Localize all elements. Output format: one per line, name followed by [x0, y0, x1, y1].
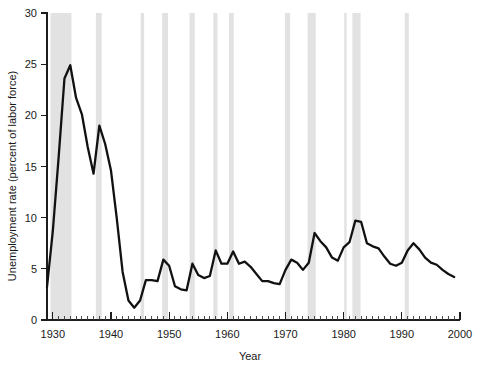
recession-band — [50, 13, 71, 320]
recession-band — [352, 13, 360, 320]
y-tick-label: 5 — [31, 263, 37, 275]
x-tick-label: 1990 — [390, 328, 414, 340]
recession-band — [405, 13, 409, 320]
x-tick-label: 2000 — [448, 328, 472, 340]
recession-band — [141, 13, 144, 320]
unemployment-rate-line — [47, 65, 454, 308]
x-tick-label: 1950 — [157, 328, 181, 340]
data-series-group — [47, 65, 454, 308]
y-tick-label: 10 — [25, 212, 37, 224]
y-tick-label: 30 — [25, 7, 37, 19]
y-tick-label: 20 — [25, 109, 37, 121]
y-tick-label: 25 — [25, 58, 37, 70]
plot-axes-group — [41, 13, 460, 320]
chart-canvas: 051015202530 193019401950196019701980199… — [0, 0, 489, 366]
recession-band — [229, 13, 234, 320]
recession-band — [213, 13, 217, 320]
x-axis-title: Year — [239, 350, 262, 362]
x-tick-label: 1940 — [99, 328, 123, 340]
y-axis-title: Unemployment rate (percent of labor forc… — [6, 71, 18, 281]
recession-band — [344, 13, 346, 320]
recession-bands-group — [50, 13, 408, 320]
x-tick-label: 1980 — [331, 328, 355, 340]
recession-band — [285, 13, 290, 320]
x-tick-labels-group: 19301940195019601970198019902000 — [41, 328, 473, 340]
recession-band — [96, 13, 102, 320]
unemployment-chart-figure: 051015202530 193019401950196019701980199… — [0, 0, 489, 366]
x-tick-label: 1960 — [215, 328, 239, 340]
x-tick-label: 1970 — [273, 328, 297, 340]
recession-band — [162, 13, 168, 320]
x-tick-label: 1930 — [41, 328, 65, 340]
y-tick-label: 0 — [31, 314, 37, 326]
y-tick-label: 15 — [25, 161, 37, 173]
recession-band — [308, 13, 316, 320]
y-tick-labels-group: 051015202530 — [25, 7, 37, 326]
